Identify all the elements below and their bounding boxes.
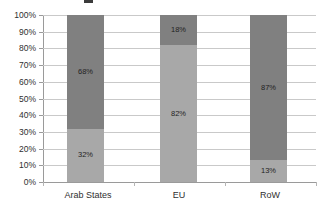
bar-arab-states[interactable]: 68% 32% bbox=[67, 15, 104, 182]
y-axis-label-0: 0% bbox=[2, 178, 36, 187]
bar-label-eu-upper: 18% bbox=[171, 26, 186, 34]
y-axis-label-20: 20% bbox=[2, 145, 36, 154]
x-axis-tick-0 bbox=[43, 182, 44, 186]
y-axis-label-80: 80% bbox=[2, 44, 36, 53]
y-axis-label-60: 60% bbox=[2, 78, 36, 87]
y-axis-label-100: 100% bbox=[2, 11, 36, 20]
y-axis-label-70: 70% bbox=[2, 61, 36, 70]
bar-label-arab-states-upper: 68% bbox=[78, 68, 93, 76]
x-axis-label-eu: EU bbox=[134, 190, 224, 200]
x-axis-label-row: RoW bbox=[225, 190, 315, 200]
bar-segment-eu-lower[interactable]: 82% bbox=[160, 45, 197, 182]
bar-row[interactable]: 87% 13% bbox=[250, 15, 287, 182]
bar-label-arab-states-lower: 32% bbox=[78, 151, 93, 159]
y-axis-label-90: 90% bbox=[2, 28, 36, 37]
bar-segment-eu-upper[interactable]: 18% bbox=[160, 15, 197, 45]
y-axis-label-40: 40% bbox=[2, 111, 36, 120]
y-axis-label-50: 50% bbox=[2, 95, 36, 104]
bar-label-row-lower: 13% bbox=[261, 167, 276, 175]
x-axis-label-arab-states: Arab States bbox=[43, 190, 133, 200]
x-axis-tick-3 bbox=[316, 182, 317, 186]
bar-segment-row-upper[interactable]: 87% bbox=[250, 15, 287, 160]
x-axis-line bbox=[43, 182, 317, 183]
bar-eu[interactable]: 18% 82% bbox=[160, 15, 197, 182]
stacked-bar-chart: 100% 90% 80% 70% 60% 50% 40% 30% 20% 10%… bbox=[0, 0, 328, 211]
x-axis-tick-1 bbox=[134, 182, 135, 186]
bar-segment-arab-states-lower[interactable]: 32% bbox=[67, 129, 104, 182]
plot-area: 68% 32% 18% 82% 87% 13% bbox=[43, 15, 316, 182]
bar-label-row-upper: 87% bbox=[261, 84, 276, 92]
bar-segment-row-lower[interactable]: 13% bbox=[250, 160, 287, 182]
y-axis-label-30: 30% bbox=[2, 128, 36, 137]
x-axis-tick-2 bbox=[225, 182, 226, 186]
y-axis-label-10: 10% bbox=[2, 161, 36, 170]
bar-label-eu-lower: 82% bbox=[171, 110, 186, 118]
bar-segment-arab-states-upper[interactable]: 68% bbox=[67, 15, 104, 129]
